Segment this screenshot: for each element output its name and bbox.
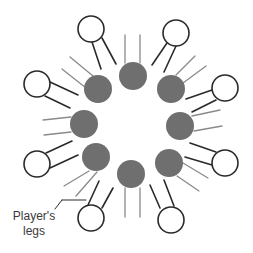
outer-player-leg	[50, 82, 78, 95]
outer-player-leg	[102, 38, 116, 64]
outer-player-leg	[50, 155, 78, 168]
inner-player-leg	[176, 56, 195, 75]
inner-player-icon	[82, 143, 110, 171]
label-line-2: legs	[4, 224, 64, 238]
leader-segment	[55, 200, 62, 209]
inner-player-icon	[117, 160, 145, 188]
outer-player-icon	[78, 16, 104, 42]
inner-player-leg	[194, 126, 222, 131]
outer-player-leg	[164, 46, 176, 72]
outer-player-icon	[24, 151, 50, 177]
inner-player-icon	[157, 75, 185, 103]
inner-player-leg	[183, 66, 206, 83]
outer-player-icon	[212, 75, 238, 101]
outer-player-leg	[45, 96, 70, 108]
inner-player-bodies	[70, 62, 194, 188]
outer-player-icon	[24, 71, 50, 97]
outer-player-icon	[78, 205, 104, 231]
outer-player-icon	[158, 207, 184, 233]
label-leader-line	[55, 200, 86, 209]
outer-player-leg	[185, 157, 212, 165]
inner-player-icon	[84, 75, 112, 103]
outer-player-leg	[92, 42, 101, 69]
inner-player-icon	[166, 112, 194, 140]
inner-player-icon	[119, 62, 147, 90]
inner-player-icon	[155, 149, 183, 177]
inner-player-leg	[43, 117, 71, 120]
players-legs-label: Player's legs	[4, 209, 64, 238]
outer-player-leg	[152, 43, 167, 65]
outer-player-bodies	[24, 16, 238, 233]
inner-player-leg	[44, 132, 71, 135]
inner-player-leg	[183, 163, 208, 178]
inner-player-leg	[62, 69, 86, 88]
inner-player-leg	[64, 171, 89, 186]
inner-player-leg	[192, 110, 220, 116]
outer-player-leg	[190, 143, 216, 152]
inner-player-icon	[70, 110, 98, 138]
outer-player-leg	[186, 90, 212, 99]
outer-player-leg	[192, 100, 216, 112]
outer-player-leg	[150, 185, 160, 208]
outer-player-icon	[163, 20, 189, 46]
outer-player-leg	[88, 181, 99, 205]
outer-player-leg	[102, 188, 113, 208]
outer-player-leg	[164, 180, 174, 206]
outer-player-leg	[46, 141, 72, 153]
outer-player-icon	[212, 150, 238, 176]
inner-player-leg	[177, 176, 199, 191]
inner-player-leg	[70, 57, 93, 76]
label-line-1: Player's	[4, 209, 64, 223]
